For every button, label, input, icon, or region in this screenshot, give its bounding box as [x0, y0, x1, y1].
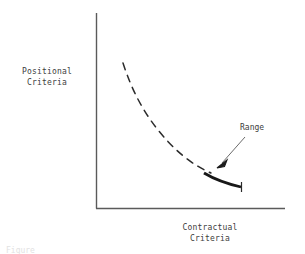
range-arrow-shaft [222, 137, 245, 163]
range-arrow-head [217, 160, 227, 168]
tradeoff-curve-dashed [123, 63, 211, 173]
figure-root: Positional Criteria Contractual Criteria… [0, 0, 305, 254]
range-segment-solid [204, 173, 241, 187]
x-axis-label: Contractual Criteria [160, 222, 260, 244]
range-annotation-label: Range [240, 123, 264, 133]
y-axis-label: Positional Criteria [8, 66, 86, 88]
figure-caption-partial: Figure [6, 246, 35, 254]
